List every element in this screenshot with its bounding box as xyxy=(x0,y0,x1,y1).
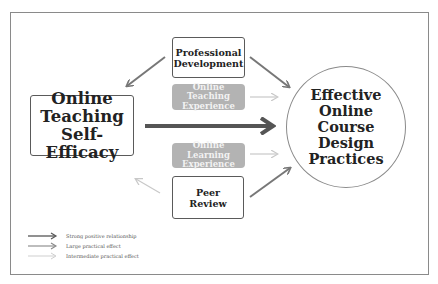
node-line: Practices xyxy=(308,151,383,167)
node-line: Online xyxy=(308,103,383,119)
node-online-learning-experience: Online Learning Experience xyxy=(172,143,245,168)
legend-label: Intermediate practical effect xyxy=(66,253,139,259)
strong-arrow-icon xyxy=(28,232,58,240)
arrow-pd-to-efficacy xyxy=(127,57,165,86)
node-effective-online-course-design-practices: Effective Online Course Design Practices xyxy=(286,66,406,188)
legend: Strong positive relationship Large pract… xyxy=(28,231,139,261)
node-line: Teaching xyxy=(31,108,133,126)
arrow-peer-to-efficacy xyxy=(136,179,160,193)
large-arrow-icon xyxy=(28,242,58,250)
node-line: Effective xyxy=(308,87,383,103)
node-line: Online Learning xyxy=(172,141,245,160)
node-online-teaching-experience: Online Teaching Experience xyxy=(172,84,245,110)
node-line: Professional xyxy=(174,47,244,58)
node-line: Self-Efficacy xyxy=(31,126,133,162)
legend-item-large: Large practical effect xyxy=(28,241,139,251)
legend-item-strong: Strong positive relationship xyxy=(28,231,139,241)
node-line: Online xyxy=(31,90,133,108)
arrow-peer-to-outcome xyxy=(250,168,290,197)
node-online-teaching-self-efficacy: Online Teaching Self-Efficacy xyxy=(30,95,134,156)
arrow-pd-to-outcome xyxy=(250,57,289,87)
node-line: Online Teaching xyxy=(172,83,245,102)
node-line: Design xyxy=(308,135,383,151)
node-line: Development xyxy=(174,58,244,69)
legend-item-intermediate: Intermediate practical effect xyxy=(28,251,139,261)
node-professional-development: Professional Development xyxy=(172,37,245,78)
node-line: Experience xyxy=(172,102,245,112)
node-line: Review xyxy=(189,198,226,209)
node-line: Course xyxy=(308,119,383,135)
node-line: Peer xyxy=(189,187,226,198)
node-peer-review: Peer Review xyxy=(172,176,244,219)
legend-label: Strong positive relationship xyxy=(66,233,137,239)
intermediate-arrow-icon xyxy=(28,252,58,260)
node-line: Experience xyxy=(172,160,245,170)
legend-label: Large practical effect xyxy=(66,243,121,249)
